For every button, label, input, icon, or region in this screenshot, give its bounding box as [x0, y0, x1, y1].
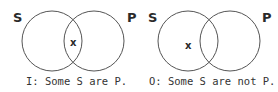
label-s: S [148, 10, 157, 25]
label-p: P [262, 10, 272, 25]
caption-o: O: Some S are not P. [149, 75, 275, 87]
caption-i: I: Some S are P. [26, 75, 127, 87]
venn-diagram-o [158, 11, 260, 71]
label-p: P [127, 10, 137, 25]
label-s: S [13, 10, 22, 25]
existence-mark: x [70, 37, 76, 48]
existence-mark: x [185, 40, 191, 51]
circle-p [200, 11, 260, 71]
